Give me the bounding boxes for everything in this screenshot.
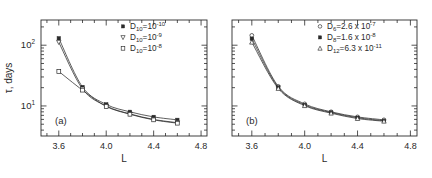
legend-entry: D12=6.3 x 10-11 xyxy=(327,43,382,54)
legend-entry: D8=1.6 x 10-8 xyxy=(327,32,376,43)
figure-root: 3.64.04.44.8L(a)D10=10-10D10=10-9D10=10-… xyxy=(0,0,432,178)
series-a-0 xyxy=(57,37,179,122)
x-tick-label: 4.8 xyxy=(404,141,417,151)
y-tick-label: 101 xyxy=(21,99,36,111)
legend-b: D6=2.6 x 10-7D8=1.6 x 10-8D12=6.3 x 10-1… xyxy=(318,21,383,54)
x-axis-title: L xyxy=(322,153,328,164)
legend-entry: D10=10-9 xyxy=(130,32,162,43)
y-axis-labels: 101102τ, days xyxy=(3,38,35,111)
data-point-open-square xyxy=(57,70,61,74)
x-tick-label: 4.8 xyxy=(195,141,208,151)
legend-a: D10=10-10D10=10-9D10=10-8 xyxy=(121,21,166,54)
legend-marker-down-triangle xyxy=(121,36,125,40)
legend-marker-open-triangle xyxy=(318,46,322,50)
y-axis-title: τ, days xyxy=(3,63,14,94)
panel-tag-a: (a) xyxy=(55,115,67,126)
legend-entry: D6=2.6 x 10-7 xyxy=(327,21,376,32)
x-tick-label: 3.6 xyxy=(53,141,66,151)
legend-marker-filled-square xyxy=(121,25,124,28)
panel-b: 3.64.04.44.8L(b)D6=2.6 x 10-7D8=1.6 x 10… xyxy=(232,20,417,164)
legend-entry: D10=10-10 xyxy=(130,21,166,32)
x-tick-label: 4.4 xyxy=(351,141,364,151)
x-tick-label: 4.0 xyxy=(100,141,113,151)
figure-canvas: 3.64.04.44.8L(a)D10=10-10D10=10-9D10=10-… xyxy=(0,0,432,178)
data-point-open-square xyxy=(152,118,156,122)
legend-marker-filled-square xyxy=(318,36,321,39)
x-tick-label: 4.4 xyxy=(147,141,160,151)
data-point-open-circle xyxy=(250,34,254,38)
legend-entry: D10=10-8 xyxy=(130,43,162,54)
panel-frame-b xyxy=(232,20,417,136)
x-tick-label: 3.6 xyxy=(246,141,259,151)
data-point-open-square xyxy=(104,105,108,109)
legend-marker-open-circle xyxy=(318,25,322,29)
data-point-open-square xyxy=(81,88,85,92)
data-point-filled-square xyxy=(57,37,60,40)
series-a-1 xyxy=(57,40,180,125)
series-a-2 xyxy=(57,70,179,126)
panel-a: 3.64.04.44.8L(a)D10=10-10D10=10-9D10=10-… xyxy=(41,20,207,164)
panel-tag-b: (b) xyxy=(246,115,258,126)
data-point-open-square xyxy=(128,112,132,116)
legend-marker-open-square xyxy=(121,47,125,51)
x-tick-label: 4.0 xyxy=(298,141,311,151)
data-point-open-square xyxy=(175,121,179,125)
x-axis-title: L xyxy=(121,153,127,164)
y-tick-label: 102 xyxy=(21,38,36,50)
